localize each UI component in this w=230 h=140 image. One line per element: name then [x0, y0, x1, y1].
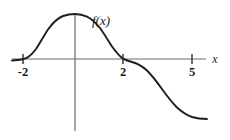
function-graph-plot: -2 2 5 x f(x)	[0, 0, 230, 140]
function-curve	[12, 14, 207, 119]
x-tick-label-5: 5	[189, 65, 195, 79]
x-tick-label-2: 2	[120, 65, 126, 79]
x-axis-label: x	[211, 52, 218, 66]
x-tick-label-neg2: -2	[18, 65, 28, 79]
function-label: f(x)	[92, 13, 110, 28]
graph-figure: -2 2 5 x f(x)	[0, 0, 230, 140]
